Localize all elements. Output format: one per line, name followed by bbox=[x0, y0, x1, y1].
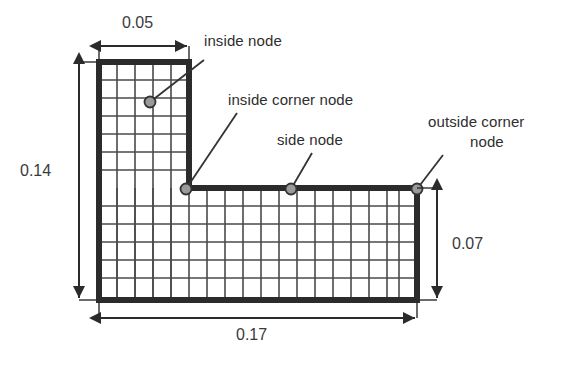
inside-node-marker bbox=[145, 97, 156, 108]
dimension-value-height-right: 0.07 bbox=[452, 235, 483, 253]
mesh-diagram-svg bbox=[0, 0, 577, 368]
leader-inside-corner-node bbox=[186, 113, 237, 189]
diagram-canvas: inside node inside corner node side node… bbox=[0, 0, 577, 368]
side-node-marker bbox=[286, 184, 297, 195]
outside-corner-node-marker bbox=[412, 184, 423, 195]
label-side-node: side node bbox=[277, 131, 343, 149]
dimension-value-width-bottom: 0.17 bbox=[236, 326, 267, 344]
leader-outside-corner-node bbox=[417, 155, 443, 189]
dimension-value-width-top: 0.05 bbox=[122, 14, 153, 32]
label-outside-corner-node-line2: node bbox=[470, 133, 504, 151]
label-inside-corner-node: inside corner node bbox=[228, 91, 353, 109]
leader-lines bbox=[150, 60, 443, 189]
label-outside-corner-node: outside corner bbox=[428, 113, 524, 131]
label-inside-node: inside node bbox=[204, 32, 282, 50]
inside-corner-node-marker bbox=[181, 184, 192, 195]
dimension-value-height-left: 0.14 bbox=[20, 162, 51, 180]
